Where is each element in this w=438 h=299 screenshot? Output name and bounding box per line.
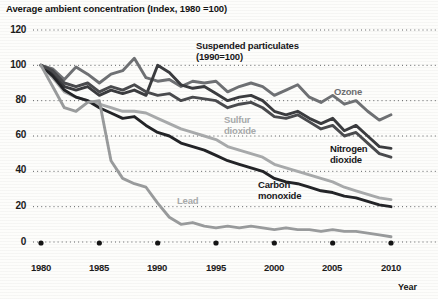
series-label-sulfur-dioxide: Sulfur dioxide bbox=[224, 115, 256, 136]
series-label-line1: Nitrogen bbox=[330, 143, 367, 154]
series-label-carbon-monoxide: Carbon monoxide bbox=[258, 180, 301, 201]
series-label-line2: monoxide bbox=[258, 190, 301, 201]
x-axis-dot-1980 bbox=[38, 240, 43, 245]
series-label-line1: Carbon bbox=[258, 179, 290, 190]
x-axis-dot-2000 bbox=[272, 240, 277, 245]
series-label-line2: dioxide bbox=[224, 125, 256, 136]
series-label-line1: Suspended particulates bbox=[196, 40, 299, 51]
x-axis-markers bbox=[38, 240, 393, 245]
series-label-line2: dioxide bbox=[330, 154, 362, 165]
x-axis-dot-1985 bbox=[97, 240, 102, 245]
series-label-line1: Sulfur bbox=[224, 114, 250, 125]
series-label-ozone: Ozone bbox=[334, 87, 362, 98]
series-label-lead: Lead bbox=[177, 196, 198, 207]
series-label-suspended-particulates: Suspended particulates (1990=100) bbox=[196, 41, 299, 62]
x-axis-dot-2010 bbox=[388, 240, 393, 245]
series-label-line2: (1990=100) bbox=[196, 51, 243, 62]
x-axis-dot-1990 bbox=[155, 240, 160, 245]
x-axis-dot-1995 bbox=[213, 240, 218, 245]
series-label-nitrogen-dioxide: Nitrogen dioxide bbox=[330, 144, 367, 165]
x-axis-dot-2005 bbox=[330, 240, 335, 245]
chart-container: Average ambient concentration (Index, 19… bbox=[0, 0, 438, 299]
